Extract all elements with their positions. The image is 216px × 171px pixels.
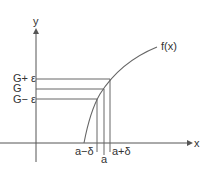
x-tick-a: a — [101, 153, 108, 165]
x-tick-a-plus-delta: a+δ — [112, 145, 131, 157]
curve-label: f(x) — [161, 40, 177, 52]
y-tick-g-minus-epsilon: G− ε — [13, 93, 36, 105]
y-axis-label: y — [33, 15, 39, 27]
epsilon-delta-diagram: y x f(x) G+ ε G G− ε a−δ a a+δ — [0, 0, 216, 171]
function-curve — [84, 47, 157, 143]
x-tick-a-minus-delta: a−δ — [75, 145, 94, 157]
x-axis-label: x — [194, 137, 200, 149]
